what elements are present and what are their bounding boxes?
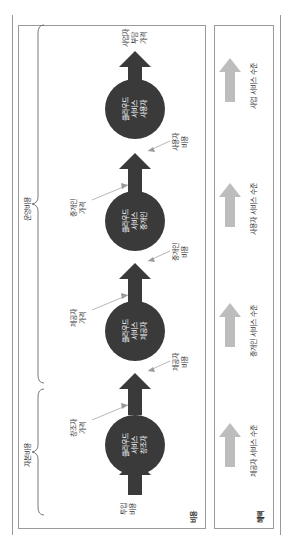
benefit-level-provider: 제공자 서비스 수준 bbox=[250, 425, 259, 477]
diagram-canvas: 비용 혜택 자본비용 운영비용 투입 비용 bbox=[0, 0, 289, 557]
benefit-level-user: 사용자 서비스 수준 bbox=[250, 183, 259, 235]
benefit-level-business: 사업 서비스 수준 bbox=[250, 63, 259, 109]
benefit-level-broker: 중개인 서비스 수준 bbox=[250, 305, 259, 357]
benefit-arrows bbox=[0, 0, 289, 557]
